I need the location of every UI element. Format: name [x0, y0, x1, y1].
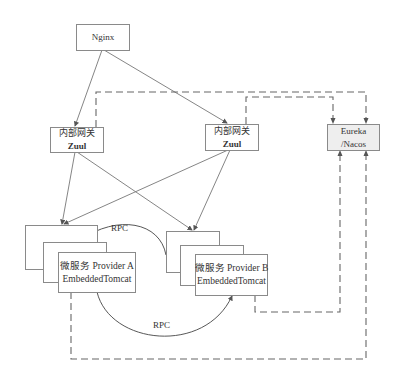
provider-a-node: 微服务 Provider A EmbeddedTomcat [58, 252, 136, 293]
zuul-right-node: 内部网关 Zuul [205, 124, 259, 151]
dashed-zuul-right-registry [246, 97, 333, 124]
nginx-label: Nginx [92, 31, 115, 44]
zuul-left-title: 内部网关 [59, 127, 95, 140]
registry-node: Eureka /Nacos [327, 124, 380, 151]
edge-zuul-left-provider-b [77, 152, 192, 230]
rpc-top-label: RPC [111, 223, 128, 233]
edge-zuul-right-provider-b [194, 150, 230, 230]
edge-zuul-left-provider-a [62, 152, 75, 224]
dashed-zuul-left-registry [96, 92, 366, 127]
edge-nginx-zuul-right [104, 50, 227, 123]
connector-layer [0, 0, 398, 385]
zuul-right-title: 内部网关 [214, 125, 250, 138]
provider-a-subtitle: EmbeddedTomcat [63, 273, 132, 286]
registry-title: Eureka [341, 125, 366, 138]
zuul-left-subtitle: Zuul [68, 140, 87, 153]
zuul-right-subtitle: Zuul [223, 138, 242, 151]
rpc-bottom-label: RPC [153, 320, 170, 330]
zuul-left-node: 内部网关 Zuul [50, 127, 104, 153]
edge-nginx-zuul-left [75, 50, 102, 126]
edge-zuul-right-provider-a [64, 150, 228, 224]
provider-b-subtitle: EmbeddedTomcat [197, 275, 266, 288]
provider-b-node: 微服务 Provider B EmbeddedTomcat [195, 254, 268, 296]
provider-a-title: 微服务 Provider A [60, 260, 134, 273]
provider-b-title: 微服务 Provider B [195, 262, 269, 275]
nginx-node: Nginx [76, 24, 130, 51]
registry-subtitle: /Nacos [341, 138, 366, 151]
architecture-diagram: Nginx 内部网关 Zuul 内部网关 Zuul Eureka /Nacos … [0, 0, 398, 385]
